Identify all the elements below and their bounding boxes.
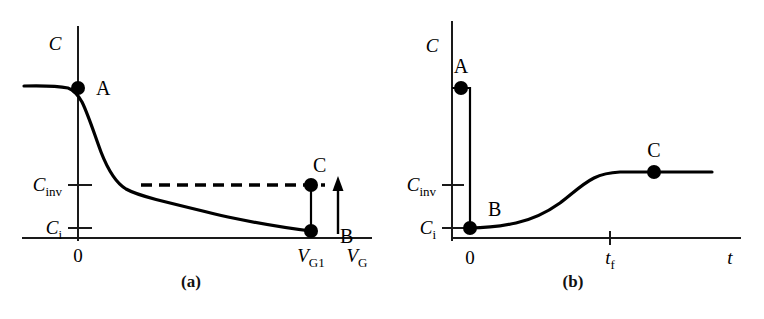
y-tick-label-cinv: Cinv [33,174,63,199]
cropped-caption-fragment [392,305,752,317]
panel-b: C Cinv Ci 0 tf t A B [382,0,764,319]
y-tick-label-cinv: Cinv [407,174,437,199]
x-tick-label-zero: 0 [73,245,83,266]
y-tick-label-ci-base: C [420,217,433,238]
y-axis-label: C [49,33,62,54]
point-label-b: B [340,225,353,247]
x-axis-label-sub: G [358,255,367,270]
transition-arrow-head [333,176,344,191]
point-marker-a [71,81,85,95]
x-tick-label-tf-sub: f [610,257,615,272]
point-marker-c [304,178,318,192]
x-tick-label-vg1-sub: G1 [309,255,325,270]
y-tick-label-ci-base: C [46,217,59,238]
point-label-a: A [454,55,469,77]
point-marker-a [454,81,468,95]
y-tick-label-cinv-sub: inv [419,184,436,199]
point-marker-c [647,165,661,179]
point-label-c: C [313,154,326,176]
x-tick-label-tf: tf [605,247,615,272]
point-label-c: C [647,139,660,161]
panel-a-caption: (a) [0,272,382,292]
y-tick-label-cinv-sub: inv [45,184,62,199]
y-axis-label: C [426,35,439,56]
y-tick-label-ci-sub: i [58,227,62,242]
y-tick-label-cinv-base: C [407,174,420,195]
point-label-a: A [96,77,111,99]
x-axis-label: t [727,247,733,268]
transient-recovery-curve [470,172,712,228]
y-tick-label-cinv-base: C [33,174,46,195]
y-tick-label-ci: Ci [420,217,437,242]
x-tick-label-vg1: VG1 [297,245,325,270]
panel-b-caption: (b) [382,272,764,292]
x-axis-label: VG [347,245,368,270]
x-tick-label-zero: 0 [465,247,475,268]
y-tick-label-ci-sub: i [432,227,436,242]
point-label-b: B [488,198,501,220]
point-marker-b [304,224,318,238]
panel-a: C Cinv Ci 0 VG1 VG [0,0,382,319]
figure-root: C Cinv Ci 0 VG1 VG [0,0,764,319]
step-drop-path [452,88,470,228]
cv-curve [24,86,311,231]
point-marker-b [463,221,477,235]
